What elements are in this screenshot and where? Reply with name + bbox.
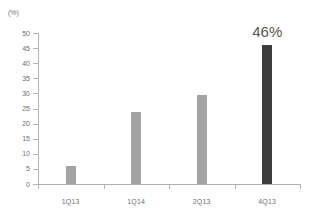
y-tick-label-wrap: 5: [6, 165, 30, 172]
bar: [197, 95, 207, 184]
y-axis-line: [38, 33, 39, 185]
y-tick-label: 30: [8, 90, 30, 97]
y-tick-mark: [33, 78, 38, 79]
x-axis-label: 1Q13: [38, 198, 104, 206]
y-tick-mark: [33, 139, 38, 140]
y-tick-mark: [33, 63, 38, 64]
y-tick-mark: [33, 109, 38, 110]
y-tick-label-wrap: 35: [6, 75, 30, 82]
y-tick-label: 20: [8, 120, 30, 127]
x-axis-label: 2Q13: [169, 198, 235, 206]
x-tick-mark: [169, 184, 170, 189]
bar-value-label: 46%: [237, 24, 297, 40]
y-tick-label: 35: [8, 75, 30, 82]
bar: [131, 112, 141, 184]
x-axis-label: 4Q13: [234, 198, 300, 206]
bar: [262, 45, 272, 184]
y-tick-label: 5: [8, 165, 30, 172]
y-tick-label-wrap: 45: [6, 45, 30, 52]
y-tick-mark: [33, 33, 38, 34]
bar-chart: (%) 05101520253035404550 1Q131Q142Q134Q1…: [0, 0, 313, 221]
y-tick-label-wrap: 10: [6, 150, 30, 157]
y-tick-label: 40: [8, 60, 30, 67]
x-tick-mark: [235, 184, 236, 189]
x-axis-label: 1Q14: [103, 198, 169, 206]
y-tick-label-wrap: 25: [6, 105, 30, 112]
x-tick-mark: [38, 184, 39, 189]
y-tick-mark: [33, 124, 38, 125]
x-tick-mark: [300, 184, 301, 189]
y-tick-label: 10: [8, 150, 30, 157]
y-tick-label-wrap: 50: [6, 30, 30, 37]
x-tick-mark: [104, 184, 105, 189]
y-tick-mark: [33, 93, 38, 94]
y-tick-label-wrap: 20: [6, 120, 30, 127]
bar: [66, 166, 76, 184]
y-tick-label-wrap: 40: [6, 60, 30, 67]
y-tick-mark: [33, 48, 38, 49]
y-tick-label: 0: [8, 181, 30, 188]
y-tick-label-wrap: 0: [6, 181, 30, 188]
y-axis-unit-label: (%): [8, 9, 19, 16]
y-tick-label: 15: [8, 135, 30, 142]
y-tick-mark: [33, 169, 38, 170]
y-tick-label: 45: [8, 45, 30, 52]
y-tick-mark: [33, 154, 38, 155]
y-tick-label-wrap: 30: [6, 90, 30, 97]
y-tick-label: 25: [8, 105, 30, 112]
y-tick-label-wrap: 15: [6, 135, 30, 142]
y-tick-label: 50: [8, 30, 30, 37]
